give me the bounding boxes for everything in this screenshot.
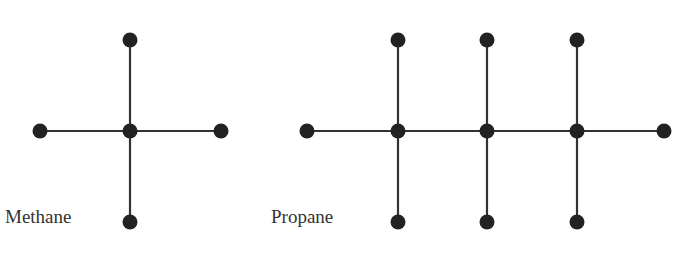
atom-node bbox=[391, 124, 406, 139]
atom-node bbox=[33, 124, 48, 139]
atom-node bbox=[480, 215, 495, 230]
methane-label: Methane bbox=[5, 206, 71, 228]
atom-node bbox=[123, 215, 138, 230]
atom-node bbox=[480, 33, 495, 48]
atom-node bbox=[570, 215, 585, 230]
atom-node bbox=[214, 124, 229, 139]
atom-node bbox=[480, 124, 495, 139]
atom-node bbox=[123, 124, 138, 139]
atom-node bbox=[391, 33, 406, 48]
methane-molecule bbox=[33, 33, 229, 230]
atom-node bbox=[300, 124, 315, 139]
atom-node bbox=[570, 33, 585, 48]
atom-node bbox=[391, 215, 406, 230]
propane-molecule bbox=[300, 33, 672, 230]
atom-node bbox=[570, 124, 585, 139]
atom-node bbox=[657, 124, 672, 139]
propane-label: Propane bbox=[271, 206, 333, 228]
atom-node bbox=[123, 33, 138, 48]
molecule-diagram bbox=[0, 0, 673, 262]
